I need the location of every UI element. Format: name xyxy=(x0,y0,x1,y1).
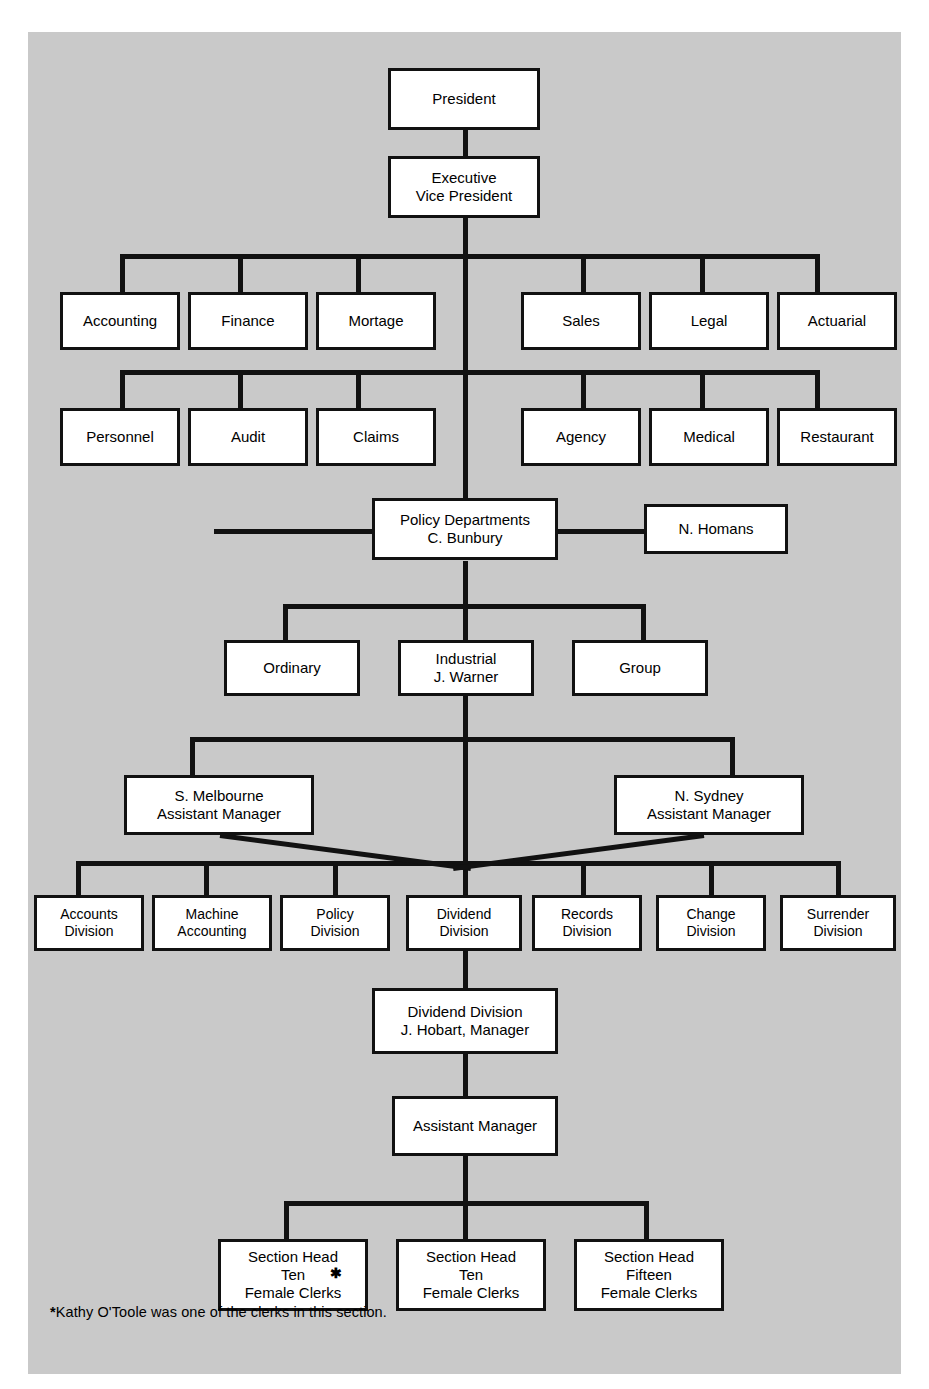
node-executive-vice-president-label: Executive Vice President xyxy=(394,169,534,204)
bus-departments-row1 xyxy=(120,254,820,259)
node-medical[interactable]: Medical xyxy=(649,408,769,466)
node-accounting-label: Accounting xyxy=(66,312,174,330)
node-n-sydney-label: N. Sydney Assistant Manager xyxy=(620,787,798,822)
node-records-division[interactable]: Records Division xyxy=(532,895,642,951)
node-claims-label: Claims xyxy=(322,428,430,446)
node-actuarial-label: Actuarial xyxy=(783,312,891,330)
node-assistant-manager-label: Assistant Manager xyxy=(398,1117,552,1135)
drop-n-sydney xyxy=(730,737,735,777)
node-mortage[interactable]: Mortage xyxy=(316,292,436,350)
node-president-label: President xyxy=(394,90,534,108)
node-dividend-division[interactable]: Dividend Division xyxy=(406,895,522,951)
connector-assistant-to-sections xyxy=(463,1156,468,1204)
node-executive-vice-president[interactable]: Executive Vice President xyxy=(388,156,540,218)
drop-industrial xyxy=(463,604,468,642)
node-n-homans-label: N. Homans xyxy=(650,520,782,538)
node-surrender-division-label: Surrender Division xyxy=(786,906,890,939)
drop-records-division xyxy=(581,861,586,897)
node-audit[interactable]: Audit xyxy=(188,408,308,466)
node-n-sydney[interactable]: N. Sydney Assistant Manager xyxy=(614,775,804,835)
node-s-melbourne[interactable]: S. Melbourne Assistant Manager xyxy=(124,775,314,835)
org-chart-panel: President Executive Vice President Accou… xyxy=(28,32,901,1374)
node-n-homans[interactable]: N. Homans xyxy=(644,504,788,554)
node-policy-division-label: Policy Division xyxy=(286,906,384,939)
drop-sales xyxy=(581,254,586,294)
drop-policy-division xyxy=(333,861,338,897)
node-section-head-3-label: Section Head Fifteen Female Clerks xyxy=(580,1248,718,1301)
drop-personnel xyxy=(120,370,125,410)
node-group-label: Group xyxy=(578,659,702,677)
drop-finance xyxy=(238,254,243,294)
node-s-melbourne-label: S. Melbourne Assistant Manager xyxy=(130,787,308,822)
drop-agency xyxy=(581,370,586,410)
node-ordinary-label: Ordinary xyxy=(230,659,354,677)
section-head-1-asterisk: ✱ xyxy=(330,1265,342,1281)
drop-claims xyxy=(356,370,361,410)
node-policy-departments[interactable]: Policy Departments C. Bunbury xyxy=(372,498,558,560)
node-machine-accounting-label: Machine Accounting xyxy=(158,906,266,939)
drop-legal xyxy=(700,254,705,294)
node-personnel[interactable]: Personnel xyxy=(60,408,180,466)
drop-s-melbourne xyxy=(190,737,195,777)
drop-ordinary xyxy=(283,604,288,642)
node-section-head-3[interactable]: Section Head Fifteen Female Clerks xyxy=(574,1239,724,1311)
node-dividend-division-label: Dividend Division xyxy=(412,906,516,939)
node-group[interactable]: Group xyxy=(572,640,708,696)
node-accounting[interactable]: Accounting xyxy=(60,292,180,350)
node-sales-label: Sales xyxy=(527,312,635,330)
node-agency-label: Agency xyxy=(527,428,635,446)
node-records-division-label: Records Division xyxy=(538,906,636,939)
node-personnel-label: Personnel xyxy=(66,428,174,446)
node-surrender-division[interactable]: Surrender Division xyxy=(780,895,896,951)
connector-evp-trunk xyxy=(463,216,468,504)
node-change-division[interactable]: Change Division xyxy=(656,895,766,951)
footnote-text: Kathy O'Toole was one of the clerks in t… xyxy=(56,1304,387,1320)
node-machine-accounting[interactable]: Machine Accounting xyxy=(152,895,272,951)
node-accounts-division-label: Accounts Division xyxy=(40,906,138,939)
org-chart-stage: President Executive Vice President Accou… xyxy=(28,32,901,1374)
node-medical-label: Medical xyxy=(655,428,763,446)
drop-machine-accounting xyxy=(204,861,209,897)
node-actuarial[interactable]: Actuarial xyxy=(777,292,897,350)
node-ordinary[interactable]: Ordinary xyxy=(224,640,360,696)
node-restaurant-label: Restaurant xyxy=(783,428,891,446)
drop-accounts-division xyxy=(76,861,81,897)
drop-surrender-division xyxy=(836,861,841,897)
drop-accounting xyxy=(120,254,125,294)
node-dividend-division-manager-label: Dividend Division J. Hobart, Manager xyxy=(378,1003,552,1038)
node-policy-division[interactable]: Policy Division xyxy=(280,895,390,951)
node-sales[interactable]: Sales xyxy=(521,292,641,350)
node-section-head-2[interactable]: Section Head Ten Female Clerks xyxy=(396,1239,546,1311)
bus-departments-row2 xyxy=(120,370,820,375)
node-industrial-label: Industrial J. Warner xyxy=(404,650,528,685)
drop-section-head-1 xyxy=(284,1201,289,1241)
drop-group xyxy=(641,604,646,642)
node-industrial[interactable]: Industrial J. Warner xyxy=(398,640,534,696)
node-finance-label: Finance xyxy=(194,312,302,330)
node-section-head-2-label: Section Head Ten Female Clerks xyxy=(402,1248,540,1301)
node-audit-label: Audit xyxy=(194,428,302,446)
node-section-head-1[interactable]: Section Head Ten Female Clerks xyxy=(218,1239,368,1311)
drop-mortage xyxy=(356,254,361,294)
node-claims[interactable]: Claims xyxy=(316,408,436,466)
drop-section-head-2 xyxy=(463,1201,468,1241)
drop-change-division xyxy=(709,861,714,897)
connector-center-spine-divisions xyxy=(463,737,468,864)
connector-policy-trunk xyxy=(463,561,468,607)
connector-industrial-trunk xyxy=(463,694,468,740)
node-dividend-division-manager[interactable]: Dividend Division J. Hobart, Manager xyxy=(372,988,558,1054)
drop-restaurant xyxy=(815,370,820,410)
node-change-division-label: Change Division xyxy=(662,906,760,939)
drop-audit xyxy=(238,370,243,410)
drop-actuarial xyxy=(815,254,820,294)
node-accounts-division[interactable]: Accounts Division xyxy=(34,895,144,951)
node-legal[interactable]: Legal xyxy=(649,292,769,350)
node-finance[interactable]: Finance xyxy=(188,292,308,350)
node-assistant-manager[interactable]: Assistant Manager xyxy=(392,1096,558,1156)
node-legal-label: Legal xyxy=(655,312,763,330)
node-restaurant[interactable]: Restaurant xyxy=(777,408,897,466)
node-president[interactable]: President xyxy=(388,68,540,130)
node-agency[interactable]: Agency xyxy=(521,408,641,466)
node-mortage-label: Mortage xyxy=(322,312,430,330)
footnote: *Kathy O'Toole was one of the clerks in … xyxy=(50,1304,387,1320)
